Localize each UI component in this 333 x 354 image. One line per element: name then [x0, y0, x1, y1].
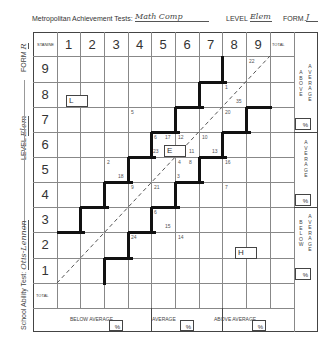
average-pct-box[interactable]: % [295, 194, 311, 206]
below-band-right: AVERAGE [306, 214, 314, 253]
below-average-pct[interactable]: % [109, 320, 123, 331]
cell-annotation: 3 [177, 173, 180, 179]
above-average-pct[interactable]: % [252, 320, 266, 331]
cell-annotation: 5 [131, 109, 134, 115]
cell-annotation: 14 [178, 234, 184, 240]
cell-annotation: 24 [131, 234, 137, 240]
cell-annotation: 6 [154, 209, 157, 215]
diagonal-dashed-line [0, 0, 333, 354]
below-average-label: BELOW AVERAGE [70, 316, 113, 322]
cell-annotation: 10 [202, 134, 208, 140]
average-band-text: AVERAGE [302, 140, 310, 179]
cell-annotation: 13 [212, 148, 218, 154]
cell-annotation: 11 [189, 148, 194, 154]
cell-annotation: 1 [225, 84, 228, 90]
cell-annotation: 16 [225, 159, 231, 165]
average-pct[interactable]: % [180, 320, 194, 331]
average-label: AVERAGE [152, 316, 176, 322]
above-band-left: ABOVE [297, 70, 305, 98]
student-box-e[interactable]: E [164, 145, 186, 157]
cell-annotation: 15 [165, 223, 171, 229]
cell-annotation: 8 [189, 159, 192, 165]
cell-annotation: 18 [118, 173, 124, 179]
cell-annotation: 2 [107, 159, 110, 165]
below-pct-box[interactable]: % [295, 268, 311, 280]
above-pct-box[interactable]: % [295, 118, 311, 130]
below-band-left: BELOW [297, 220, 305, 248]
cell-annotation: 22 [249, 58, 255, 64]
cell-annotation: 23 [153, 148, 159, 154]
cell-annotation: 4 [178, 159, 181, 165]
cell-annotation: 35 [236, 98, 242, 104]
cell-annotation: 17 [165, 134, 171, 140]
student-box-h[interactable]: H [235, 247, 257, 259]
cell-annotation: 9 [131, 184, 134, 190]
cell-annotation: 21 [154, 184, 160, 190]
student-box-l[interactable]: L [66, 95, 88, 107]
above-band-right: AVERAGE [306, 64, 314, 103]
cell-annotation: 20 [225, 109, 231, 115]
cell-annotation: 6 [154, 134, 157, 140]
above-average-label: ABOVE AVERAGE [214, 316, 256, 322]
cell-annotation: 12 [178, 134, 184, 140]
cell-annotation: 7 [225, 184, 228, 190]
